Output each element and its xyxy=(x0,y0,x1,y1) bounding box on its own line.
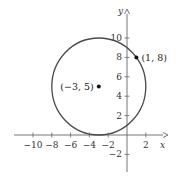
y-tick-label: 6 xyxy=(116,72,122,82)
point-label: (1, 8) xyxy=(141,52,167,63)
x-tick-label: −4 xyxy=(83,140,97,150)
x-tick-label: −10 xyxy=(24,140,43,150)
y-tick-label: 8 xyxy=(116,52,122,62)
x-tick-label: −6 xyxy=(64,140,78,150)
x-tick-label: 2 xyxy=(143,140,149,150)
point-label: (−3, 5) xyxy=(60,81,94,92)
point-marker xyxy=(97,85,101,89)
y-tick-label: 2 xyxy=(116,111,122,121)
x-tick-label: −8 xyxy=(45,140,59,150)
x-axis-label: x xyxy=(160,140,165,150)
circle-graph: xy−10−8−6−4−22−2246810 (−3, 5)(1, 8) xyxy=(0,0,178,184)
x-axis-arrow-icon xyxy=(163,133,168,138)
y-axis-arrow-icon xyxy=(125,9,130,14)
y-tick-label: 4 xyxy=(116,91,122,101)
points: (−3, 5)(1, 8) xyxy=(60,52,167,92)
y-axis-label: y xyxy=(117,6,124,16)
y-tick-label: −2 xyxy=(109,149,122,159)
point-marker xyxy=(134,55,138,59)
